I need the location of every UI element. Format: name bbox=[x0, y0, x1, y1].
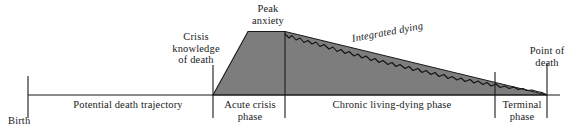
label-chronic-living-dying-phase: Chronic living-dying phase bbox=[292, 99, 492, 111]
label-acute-crisis-phase: Acute crisis phase bbox=[216, 99, 284, 122]
label-peak-anxiety: Peak anxiety bbox=[232, 3, 304, 26]
label-potential-death-trajectory: Potential death trajectory bbox=[44, 99, 212, 111]
label-crisis-knowledge-of-death: Crisis knowledge of death bbox=[158, 31, 234, 66]
label-terminal-phase: Terminal phase bbox=[499, 99, 545, 122]
dying-trajectory-diagram: Peak anxiety Crisis knowledge of death I… bbox=[0, 0, 582, 132]
label-birth: Birth bbox=[8, 115, 54, 127]
label-point-of-death: Point of death bbox=[512, 45, 582, 68]
